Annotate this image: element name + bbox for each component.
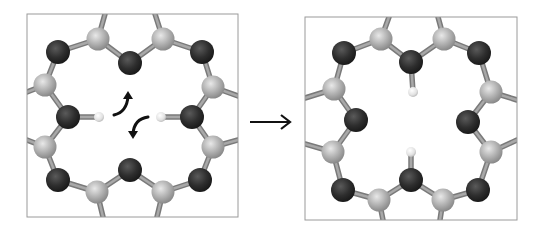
hydrogen-atom [156,112,166,122]
light-atom [34,136,57,159]
hydrogen-atom [408,87,418,97]
dark-atom [118,51,142,75]
hydrogen-atom [94,112,104,122]
light-atom [480,81,503,104]
dark-atom [467,41,491,65]
dark-atom [399,50,423,74]
light-atom [202,136,225,159]
atoms [322,28,503,212]
dark-atom [46,40,70,64]
dark-atom [344,108,368,132]
light-atom [34,74,57,97]
dark-atom [456,110,480,134]
light-atom [370,28,393,51]
dark-atom [118,158,142,182]
light-atom [480,141,503,164]
light-atom [202,76,225,99]
lower-arrow-icon [128,117,148,139]
light-atom [433,28,456,51]
upper-arrow-icon [114,91,133,115]
atoms [34,28,225,204]
light-atom [87,28,110,51]
light-atom [368,189,391,212]
hydrogen-atom [406,147,416,157]
dark-atom [46,168,70,192]
light-atom [152,28,175,51]
dark-atom [332,41,356,65]
light-atom [86,181,109,204]
light-atom [323,78,346,101]
dark-atom [190,40,214,64]
light-atom [432,189,455,212]
light-atom [322,141,345,164]
dark-atom [466,178,490,202]
dark-atom [331,178,355,202]
panel-after [305,17,517,220]
dark-atom [188,168,212,192]
light-atom [152,181,175,204]
dark-atom [180,105,204,129]
dark-atom [56,105,80,129]
panel-before [27,14,238,217]
dark-atom [399,168,423,192]
reaction-figure [0,0,542,236]
reaction-arrow [250,115,290,129]
molecule-diagram [0,0,542,236]
